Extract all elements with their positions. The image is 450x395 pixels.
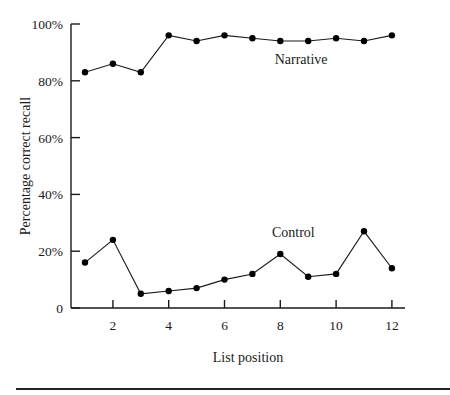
- data-point: [361, 228, 367, 234]
- data-point: [333, 35, 339, 41]
- x-tick-label: 2: [110, 318, 117, 333]
- series-layer: NarrativeControl: [82, 32, 395, 297]
- series-label: Control: [272, 225, 315, 240]
- data-point: [277, 38, 283, 44]
- y-axis-title: Percentage correct recall: [18, 97, 33, 235]
- x-axis-title: List position: [213, 350, 283, 365]
- data-point: [333, 271, 339, 277]
- x-tick-label: 12: [385, 318, 399, 333]
- data-point: [389, 32, 395, 38]
- data-point: [166, 288, 172, 294]
- data-point: [361, 38, 367, 44]
- data-point: [82, 259, 88, 265]
- data-point: [110, 61, 116, 67]
- data-point: [249, 271, 255, 277]
- series-line: [85, 231, 392, 293]
- y-tick-label: 80%: [38, 74, 63, 89]
- data-point: [389, 265, 395, 271]
- x-tick-label: 8: [277, 318, 284, 333]
- y-tick-label: 20%: [38, 244, 63, 259]
- data-point: [110, 237, 116, 243]
- data-point: [221, 32, 227, 38]
- series-label: Narrative: [275, 52, 328, 67]
- y-tick-label: 0: [56, 301, 63, 316]
- data-point: [82, 69, 88, 75]
- y-tick-label: 40%: [38, 187, 63, 202]
- data-point: [138, 291, 144, 297]
- data-point: [277, 251, 283, 257]
- data-point: [249, 35, 255, 41]
- data-point: [305, 38, 311, 44]
- x-tick-label: 10: [329, 318, 343, 333]
- data-point: [138, 69, 144, 75]
- x-axis: 24681012: [71, 300, 405, 333]
- data-point: [193, 38, 199, 44]
- data-point: [221, 276, 227, 282]
- y-tick-label: 100%: [32, 17, 64, 32]
- line-chart: 020%40%60%80%100% 24681012 NarrativeCont…: [0, 0, 450, 395]
- data-point: [166, 32, 172, 38]
- y-axis: 020%40%60%80%100%: [32, 17, 81, 316]
- series-narrative: Narrative: [82, 32, 395, 75]
- data-point: [193, 285, 199, 291]
- data-point: [305, 274, 311, 280]
- series-line: [85, 35, 392, 72]
- y-tick-label: 60%: [38, 131, 63, 146]
- series-control: Control: [82, 225, 395, 297]
- x-tick-label: 6: [221, 318, 228, 333]
- x-tick-label: 4: [165, 318, 172, 333]
